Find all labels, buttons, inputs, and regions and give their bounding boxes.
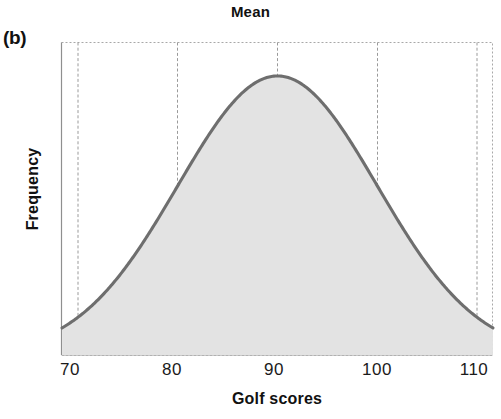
distribution-fill bbox=[62, 76, 493, 355]
x-axis-title: Golf scores bbox=[61, 390, 493, 408]
xtick-label-70: 70 bbox=[40, 361, 100, 378]
chart-figure: (b) Mean Frequency 70 80 90 100 110 Golf… bbox=[0, 0, 501, 419]
xtick-label-110: 110 bbox=[444, 361, 501, 378]
xtick-label-100: 100 bbox=[347, 361, 407, 378]
xtick-label-90: 90 bbox=[244, 361, 304, 378]
xtick-label-80: 80 bbox=[142, 361, 202, 378]
plot-area bbox=[0, 0, 501, 419]
